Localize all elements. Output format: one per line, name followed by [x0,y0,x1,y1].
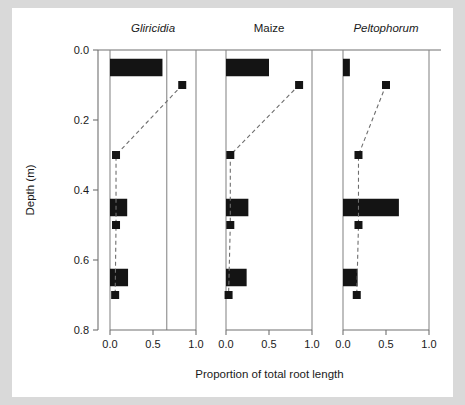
series-square-marker [295,81,303,89]
panel-title-gliricidia: Gliricidia [131,22,175,34]
series-dashed-line [357,85,386,295]
x-tick-label: 0.5 [261,338,276,350]
series-square-marker [354,221,362,229]
root-length-bar [343,269,358,287]
root-length-bar [110,199,127,217]
x-tick-label: 1.0 [304,338,319,350]
series-dashed-line [115,85,182,295]
figure-root: 0.00.20.40.60.8Depth (m)Gliricidia0.00.5… [0,0,465,405]
x-tick-label: 0.0 [335,338,350,350]
root-length-depth-chart: 0.00.20.40.60.8Depth (m)Gliricidia0.00.5… [12,8,453,397]
series-square-marker [112,221,120,229]
x-tick-label: 0.0 [102,338,117,350]
y-tick-label: 0.6 [74,254,89,266]
x-tick-label: 0.5 [378,338,393,350]
series-dashed-line [229,85,300,295]
y-axis-title: Depth (m) [24,164,36,215]
series-square-marker [382,81,390,89]
x-tick-label: 0.5 [145,338,160,350]
y-tick-label: 0.4 [74,184,89,196]
y-tick-label: 0.0 [74,44,89,56]
series-square-marker [226,221,234,229]
root-length-bar [226,199,248,217]
figure-canvas: 0.00.20.40.60.8Depth (m)Gliricidia0.00.5… [12,8,453,397]
root-length-bar [110,59,162,77]
x-tick-label: 1.0 [421,338,436,350]
x-tick-label: 0.0 [218,338,233,350]
series-square-marker [111,291,119,299]
series-square-marker [354,151,362,159]
panel-title-maize: Maize [254,22,285,34]
series-square-marker [226,151,234,159]
root-length-bar [226,59,269,77]
root-length-bar [343,199,399,217]
y-tick-label: 0.2 [74,114,89,126]
x-axis-title: Proportion of total root length [195,368,343,380]
root-length-bar [110,269,128,287]
x-tick-label: 1.0 [188,338,203,350]
series-square-marker [112,151,120,159]
series-square-marker [225,291,233,299]
series-square-marker [178,81,186,89]
panel-title-peltophorum: Peltophorum [353,22,419,34]
y-tick-label: 0.8 [74,324,89,336]
series-square-marker [353,291,361,299]
root-length-bar [343,59,350,77]
